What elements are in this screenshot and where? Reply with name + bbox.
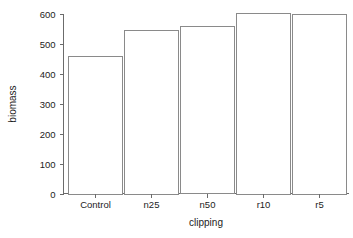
- x-axis-title: clipping: [189, 217, 223, 228]
- y-axis-tick-label: 100: [40, 159, 56, 170]
- y-axis-tick-label: 500: [40, 39, 56, 50]
- y-axis-tick-label: 300: [40, 99, 56, 110]
- bar-series: [69, 14, 347, 195]
- bar: [69, 57, 123, 195]
- x-axis-tick-labels: Controln25n50r10r5: [80, 199, 324, 210]
- x-axis-tick-label: n25: [144, 199, 160, 210]
- y-axis-tick-labels: 0100200300400500600: [40, 9, 56, 200]
- x-axis-tick-label: r10: [257, 199, 271, 210]
- x-axis-tick-label: r5: [315, 199, 323, 210]
- x-axis-tick-label: n50: [200, 199, 216, 210]
- bar: [237, 14, 291, 195]
- x-axis-tick-label: Control: [80, 199, 111, 210]
- bar-chart-figure: 0100200300400500600 Controln25n50r10r5 c…: [0, 0, 353, 238]
- y-axis-ticks: [60, 15, 64, 195]
- bar: [181, 27, 235, 194]
- y-axis-tick-label: 200: [40, 129, 56, 140]
- y-axis-tick-label: 0: [50, 189, 55, 200]
- chart-canvas: 0100200300400500600 Controln25n50r10r5 c…: [0, 0, 353, 238]
- y-axis-title: biomass: [7, 85, 18, 122]
- bar: [125, 31, 179, 195]
- y-axis-tick-label: 400: [40, 69, 56, 80]
- bar: [293, 15, 347, 195]
- y-axis-tick-label: 600: [40, 9, 56, 20]
